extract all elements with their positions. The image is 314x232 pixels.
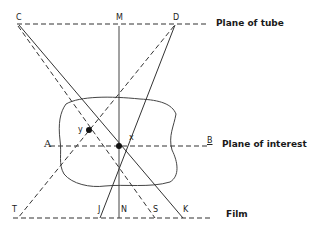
point-y [86, 127, 92, 133]
tomography-diagram [0, 0, 314, 232]
point-x [116, 143, 122, 149]
label-k: K [183, 206, 188, 214]
label-t: T [12, 206, 17, 214]
line-d-j [100, 25, 175, 218]
label-y: y [78, 126, 83, 134]
label-d: D [173, 14, 179, 22]
label-n: N [121, 206, 127, 214]
line-c-k [19, 25, 183, 218]
label-c: C [16, 14, 22, 22]
label-a: A [44, 139, 51, 149]
label-b: B [207, 137, 213, 145]
line-c-s [18, 26, 155, 218]
label-j: J [98, 206, 100, 214]
label-s: S [153, 206, 158, 214]
plane-of-tube-label: Plane of tube [216, 19, 284, 28]
line-d-t [18, 26, 174, 218]
label-m: M [116, 14, 123, 22]
plane-of-interest-label: Plane of interest [222, 140, 307, 149]
film-label: Film [226, 210, 248, 219]
label-x: x [129, 134, 134, 142]
